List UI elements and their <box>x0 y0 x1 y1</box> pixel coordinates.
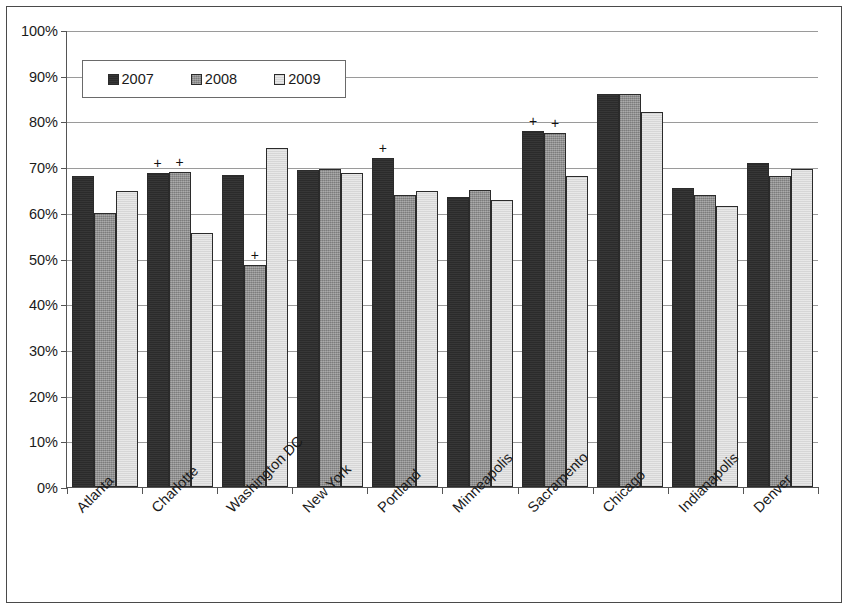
x-axis-label-cell: Denver <box>743 492 818 602</box>
bar[interactable] <box>716 206 738 487</box>
bar-group: ++ <box>518 31 593 487</box>
bar[interactable] <box>747 163 769 487</box>
bar[interactable] <box>244 265 266 487</box>
significance-plus-marker: + <box>551 116 559 130</box>
x-axis-labels: AtlantaCharlotteWashington DCNew YorkPor… <box>66 492 818 602</box>
bar[interactable] <box>94 213 116 487</box>
bar[interactable] <box>619 94 641 487</box>
chart-screenshot: 100%90%80%70%60%50%40%30%20%10%0% ++++++… <box>0 0 849 610</box>
bar-slot <box>469 31 491 487</box>
x-axis-label-cell: Indianapolis <box>668 492 743 602</box>
bar-group: ++ <box>142 31 217 487</box>
bar-group <box>292 31 367 487</box>
bar-slot <box>297 31 319 487</box>
bar[interactable] <box>169 172 191 487</box>
bar[interactable] <box>72 176 94 487</box>
bar-group <box>67 31 142 487</box>
bar-group <box>668 31 743 487</box>
bar-slot: + <box>372 31 394 487</box>
bar-group: + <box>217 31 292 487</box>
bar-groups: ++++++ <box>67 31 818 487</box>
bar-slot <box>597 31 619 487</box>
x-axis-label-cell: Chicago <box>592 492 667 602</box>
legend-label: 2007 <box>122 71 154 87</box>
bar-slot: + <box>147 31 169 487</box>
bar[interactable] <box>522 131 544 487</box>
bar[interactable] <box>544 133 566 487</box>
bar-slot <box>447 31 469 487</box>
plot-area: ++++++ <box>66 31 818 488</box>
legend-label: 2008 <box>205 71 237 87</box>
bar-group <box>442 31 517 487</box>
bar-slot <box>747 31 769 487</box>
y-axis-tick-label: 40% <box>29 297 58 313</box>
bar[interactable] <box>447 197 469 487</box>
bar[interactable] <box>672 188 694 487</box>
x-axis-label-cell: Charlotte <box>141 492 216 602</box>
x-axis-label-cell: New York <box>292 492 367 602</box>
y-axis-tick-label: 10% <box>29 434 58 450</box>
bar-slot <box>791 31 813 487</box>
bar[interactable] <box>769 176 791 487</box>
x-axis-label-cell: Washington DC <box>216 492 291 602</box>
y-axis-labels: 100%90%80%70%60%50%40%30%20%10%0% <box>0 31 58 488</box>
significance-plus-marker: + <box>379 141 387 155</box>
x-axis-label-cell: Atlanta <box>66 492 141 602</box>
x-axis-label-cell: Portland <box>367 492 442 602</box>
y-axis-tick-label: 90% <box>29 69 58 85</box>
legend-swatch-icon <box>191 74 202 85</box>
bar[interactable] <box>791 169 813 487</box>
bar[interactable] <box>222 175 244 487</box>
y-axis-tick-label: 60% <box>29 206 58 222</box>
bar-group <box>593 31 668 487</box>
bar-slot <box>619 31 641 487</box>
bar[interactable] <box>394 195 416 487</box>
bar-slot: + <box>244 31 266 487</box>
bar[interactable] <box>491 200 513 487</box>
bar-group: + <box>367 31 442 487</box>
x-axis-tick-mark <box>818 487 819 494</box>
bar-slot <box>641 31 663 487</box>
bar[interactable] <box>416 191 438 487</box>
bar-slot <box>716 31 738 487</box>
bar-slot <box>94 31 116 487</box>
significance-plus-marker: + <box>251 248 259 262</box>
bar[interactable] <box>266 148 288 487</box>
bar-slot <box>191 31 213 487</box>
significance-plus-marker: + <box>154 156 162 170</box>
y-axis-tick-label: 20% <box>29 389 58 405</box>
bar-slot <box>491 31 513 487</box>
bar-slot <box>694 31 716 487</box>
legend-item[interactable]: 2009 <box>274 71 320 87</box>
bar[interactable] <box>319 169 341 487</box>
bar-slot <box>72 31 94 487</box>
y-axis-tick-label: 80% <box>29 114 58 130</box>
bar-slot: + <box>522 31 544 487</box>
y-axis-tick-label: 100% <box>21 23 58 39</box>
bar[interactable] <box>597 94 619 487</box>
bar[interactable] <box>641 112 663 487</box>
bar-slot: + <box>169 31 191 487</box>
bar-slot <box>769 31 791 487</box>
bar-slot <box>416 31 438 487</box>
legend-swatch-icon <box>274 74 285 85</box>
bar-slot <box>116 31 138 487</box>
legend-item[interactable]: 2008 <box>191 71 237 87</box>
y-axis-tick-label: 50% <box>29 252 58 268</box>
bar[interactable] <box>147 173 169 487</box>
y-axis-tick-label: 30% <box>29 343 58 359</box>
bar[interactable] <box>694 195 716 487</box>
bar[interactable] <box>341 173 363 487</box>
bar-slot <box>266 31 288 487</box>
bar-slot: + <box>544 31 566 487</box>
legend-item[interactable]: 2007 <box>108 71 154 87</box>
bar-slot <box>672 31 694 487</box>
chart-legend: 200720082009 <box>82 60 346 98</box>
bar[interactable] <box>116 191 138 487</box>
bar[interactable] <box>566 176 588 487</box>
bar-group <box>743 31 818 487</box>
legend-label: 2009 <box>288 71 320 87</box>
bar[interactable] <box>372 158 394 487</box>
bar[interactable] <box>191 233 213 487</box>
bar[interactable] <box>469 190 491 487</box>
